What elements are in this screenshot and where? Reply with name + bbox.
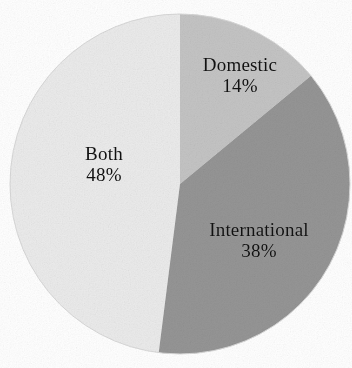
pie-label-international-name: International	[183, 219, 335, 240]
pie-label-international-value: 38%	[183, 240, 335, 261]
pie-label-domestic-value: 14%	[178, 75, 302, 96]
pie-label-international: International 38%	[183, 219, 335, 262]
pie-label-domestic: Domestic 14%	[178, 54, 302, 97]
pie-label-both: Both 48%	[51, 143, 157, 186]
pie-label-both-name: Both	[51, 143, 157, 164]
pie-label-both-value: 48%	[51, 164, 157, 185]
pie-label-domestic-name: Domestic	[178, 54, 302, 75]
pie-chart-figure: Domestic 14% International 38% Both 48%	[0, 0, 352, 368]
